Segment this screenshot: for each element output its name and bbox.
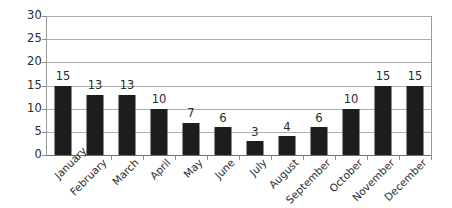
bar-value-label: 10 <box>152 94 167 106</box>
bar-group: 15 <box>47 16 79 155</box>
bar-value-label: 3 <box>251 127 258 139</box>
bar-value-label: 4 <box>283 122 290 134</box>
bar <box>55 86 72 156</box>
x-axis-category-label: January <box>53 157 77 181</box>
bar-group: 3 <box>239 16 271 155</box>
x-axis-tick-mark <box>431 155 432 160</box>
bar-group: 13 <box>111 16 143 155</box>
bar <box>343 109 360 155</box>
x-axis: JanuaryFebruaryMarchAprilMayJuneJulyAugu… <box>46 157 430 208</box>
y-axis-tick-label: 5 <box>18 126 42 138</box>
bar-group: 6 <box>303 16 335 155</box>
bar <box>375 86 392 156</box>
bar <box>407 86 424 156</box>
bar-value-label: 13 <box>120 80 135 92</box>
bar-value-label: 7 <box>187 108 194 120</box>
bar <box>183 123 200 155</box>
y-axis: 051015202530 <box>18 0 42 208</box>
bar-value-label: 6 <box>315 113 322 125</box>
bar-value-label: 10 <box>344 94 359 106</box>
y-axis-tick-label: 10 <box>18 103 42 115</box>
bar <box>247 141 264 155</box>
bar-group: 10 <box>143 16 175 155</box>
bar <box>151 109 168 155</box>
bar <box>279 136 296 155</box>
bar-value-label: 15 <box>376 71 391 83</box>
bar <box>87 95 104 155</box>
y-axis-tick-label: 30 <box>18 10 42 22</box>
bar-group: 15 <box>399 16 431 155</box>
bar-group: 13 <box>79 16 111 155</box>
y-axis-tick-label: 0 <box>18 149 42 161</box>
bar-value-label: 13 <box>88 80 103 92</box>
bar <box>119 95 136 155</box>
bar-group: 10 <box>335 16 367 155</box>
y-axis-tick-label: 15 <box>18 80 42 92</box>
bars-series: 1513131076346101515 <box>47 16 431 155</box>
bar-group: 7 <box>175 16 207 155</box>
bar <box>215 127 232 155</box>
y-axis-tick-label: 20 <box>18 57 42 69</box>
bar <box>311 127 328 155</box>
bar-group: 15 <box>367 16 399 155</box>
bar-chart: 051015202530 1513131076346101515 January… <box>0 0 452 208</box>
y-axis-tick-mark <box>42 155 47 156</box>
bar-value-label: 15 <box>408 71 423 83</box>
bar-group: 4 <box>271 16 303 155</box>
y-axis-tick-label: 25 <box>18 33 42 45</box>
bar-value-label: 6 <box>219 113 226 125</box>
plot-area: 1513131076346101515 <box>46 16 432 156</box>
bar-value-label: 15 <box>56 71 71 83</box>
bar-group: 6 <box>207 16 239 155</box>
